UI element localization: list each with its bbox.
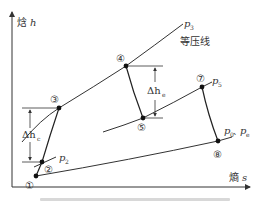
process-7-8 bbox=[202, 87, 218, 141]
isobar-note: 等压线 bbox=[180, 35, 210, 47]
x-axis-label-char: 熵 bbox=[229, 171, 239, 183]
delta-he-label: Δh bbox=[147, 85, 161, 96]
process-4-5 bbox=[126, 66, 143, 118]
y-axis-label-char: 焓 bbox=[17, 16, 27, 28]
state-label-8: ⑧ bbox=[213, 149, 222, 160]
y-axis-label-var: h bbox=[30, 17, 36, 28]
isobar-p2-sub: 2 bbox=[65, 158, 69, 165]
isobar-p3-sub: 3 bbox=[190, 24, 194, 31]
state-label-7: ⑦ bbox=[196, 73, 205, 84]
state-point-7 bbox=[200, 85, 205, 90]
delta-hc-label: Δh bbox=[22, 129, 36, 140]
state-point-1 bbox=[34, 174, 39, 179]
process-2-3 bbox=[42, 108, 59, 162]
faint-caption bbox=[40, 198, 230, 201]
delta-he-sub: e bbox=[162, 91, 166, 98]
state-point-4 bbox=[124, 64, 129, 69]
state-label-4: ④ bbox=[116, 53, 125, 64]
state-label-2: ② bbox=[44, 164, 53, 175]
isobar-pe-sub: e bbox=[246, 131, 250, 138]
state-point-8 bbox=[216, 139, 221, 144]
state-label-3: ③ bbox=[50, 94, 59, 105]
delta-hc-sub: c bbox=[37, 135, 41, 142]
isobar-p5-sub: 5 bbox=[218, 81, 222, 88]
state-point-3 bbox=[57, 106, 62, 111]
x-axis-label-var: s bbox=[242, 172, 247, 183]
h-s-cycle-diagram: 焓 h 熵 s p 3 等压线 p 2 p 5 p 0 、 p e Δh c Δ… bbox=[0, 0, 260, 204]
isobar-p3 bbox=[22, 24, 183, 142]
state-label-1: ① bbox=[25, 180, 34, 191]
state-label-5: ⑤ bbox=[137, 122, 146, 133]
state-point-5 bbox=[141, 116, 146, 121]
